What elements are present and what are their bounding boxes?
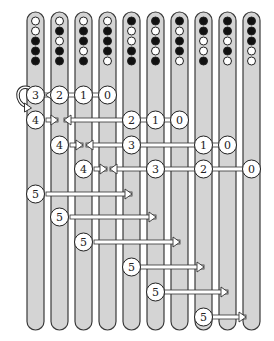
step-circle-4: 4 bbox=[75, 160, 93, 178]
step-circle-5: 5 bbox=[195, 308, 213, 326]
step-circle-5: 5 bbox=[75, 233, 93, 251]
step-label: 2 bbox=[128, 114, 135, 127]
step-circle-5: 5 bbox=[51, 208, 69, 226]
step-label: 1 bbox=[80, 89, 87, 102]
step-circle-0: 0 bbox=[99, 86, 117, 104]
black-bead-icon bbox=[80, 57, 88, 65]
white-bead-icon bbox=[224, 37, 232, 45]
white-bead-icon bbox=[32, 27, 40, 35]
bar-column-2 bbox=[51, 12, 68, 330]
white-bead-icon bbox=[200, 37, 208, 45]
step-circle-5: 5 bbox=[27, 185, 45, 203]
step-circle-3: 3 bbox=[123, 136, 141, 154]
black-bead-icon bbox=[248, 17, 256, 25]
white-bead-icon bbox=[104, 17, 112, 25]
step-label: 4 bbox=[56, 139, 63, 152]
black-bead-icon bbox=[56, 57, 64, 65]
white-bead-icon bbox=[104, 57, 112, 65]
black-bead-icon bbox=[248, 27, 256, 35]
white-bead-icon bbox=[248, 47, 256, 55]
white-bead-icon bbox=[224, 57, 232, 65]
black-bead-icon bbox=[224, 47, 232, 55]
white-bead-icon bbox=[56, 17, 64, 25]
step-circle-3: 3 bbox=[27, 86, 45, 104]
step-circle-4: 4 bbox=[51, 136, 69, 154]
white-bead-icon bbox=[200, 47, 208, 55]
step-circle-0: 0 bbox=[243, 160, 261, 178]
white-bead-icon bbox=[56, 37, 64, 45]
step-label: 5 bbox=[152, 286, 159, 299]
step-label: 5 bbox=[80, 236, 87, 249]
black-bead-icon bbox=[128, 17, 136, 25]
black-bead-icon bbox=[176, 47, 184, 55]
white-bead-icon bbox=[176, 27, 184, 35]
step-circle-0: 0 bbox=[171, 111, 189, 129]
step-circle-5: 5 bbox=[123, 258, 141, 276]
white-bead-icon bbox=[128, 27, 136, 35]
black-bead-icon bbox=[224, 17, 232, 25]
step-circle-2: 2 bbox=[195, 160, 213, 178]
step-label: 4 bbox=[32, 114, 39, 127]
black-bead-icon bbox=[152, 57, 160, 65]
step-circle-0: 0 bbox=[219, 136, 237, 154]
chain-link bbox=[132, 143, 204, 147]
black-bead-icon bbox=[104, 47, 112, 55]
step-label: 2 bbox=[200, 163, 207, 176]
black-bead-icon bbox=[128, 57, 136, 65]
black-bead-icon bbox=[32, 57, 40, 65]
sorting-diagram: 3210421043104320555555 bbox=[0, 0, 274, 341]
step-circle-2: 2 bbox=[123, 111, 141, 129]
black-bead-icon bbox=[224, 27, 232, 35]
black-bead-icon bbox=[104, 27, 112, 35]
white-bead-icon bbox=[152, 47, 160, 55]
step-label: 5 bbox=[56, 211, 63, 224]
step-circle-1: 1 bbox=[147, 111, 165, 129]
bar-column-1 bbox=[27, 12, 44, 330]
step-circle-5: 5 bbox=[147, 283, 165, 301]
black-bead-icon bbox=[80, 27, 88, 35]
step-label: 5 bbox=[128, 261, 135, 274]
step-circle-3: 3 bbox=[147, 160, 165, 178]
step-circle-1: 1 bbox=[75, 86, 93, 104]
white-bead-icon bbox=[32, 17, 40, 25]
step-label: 3 bbox=[152, 163, 159, 176]
step-circle-1: 1 bbox=[195, 136, 213, 154]
white-bead-icon bbox=[128, 37, 136, 45]
step-label: 3 bbox=[128, 139, 135, 152]
white-bead-icon bbox=[80, 17, 88, 25]
black-bead-icon bbox=[56, 27, 64, 35]
step-label: 1 bbox=[200, 139, 207, 152]
step-label: 2 bbox=[56, 89, 63, 102]
black-bead-icon bbox=[176, 37, 184, 45]
step-label: 5 bbox=[32, 188, 39, 201]
white-bead-icon bbox=[152, 27, 160, 35]
step-label: 0 bbox=[176, 114, 183, 127]
step-label: 0 bbox=[224, 139, 231, 152]
step-label: 5 bbox=[200, 311, 207, 324]
step-label: 3 bbox=[32, 89, 39, 102]
white-bead-icon bbox=[80, 47, 88, 55]
black-bead-icon bbox=[104, 37, 112, 45]
step-label: 4 bbox=[80, 163, 87, 176]
black-bead-icon bbox=[32, 37, 40, 45]
black-bead-icon bbox=[176, 17, 184, 25]
black-bead-icon bbox=[248, 37, 256, 45]
black-bead-icon bbox=[152, 37, 160, 45]
black-bead-icon bbox=[200, 57, 208, 65]
step-circle-2: 2 bbox=[51, 86, 69, 104]
step-label: 1 bbox=[152, 114, 159, 127]
white-bead-icon bbox=[176, 57, 184, 65]
black-bead-icon bbox=[152, 17, 160, 25]
step-label: 0 bbox=[248, 163, 255, 176]
black-bead-icon bbox=[56, 47, 64, 55]
black-bead-icon bbox=[128, 47, 136, 55]
black-bead-icon bbox=[80, 37, 88, 45]
black-bead-icon bbox=[32, 47, 40, 55]
step-label: 0 bbox=[104, 89, 111, 102]
step-circle-4: 4 bbox=[27, 111, 45, 129]
white-bead-icon bbox=[248, 57, 256, 65]
black-bead-icon bbox=[200, 27, 208, 35]
black-bead-icon bbox=[200, 17, 208, 25]
